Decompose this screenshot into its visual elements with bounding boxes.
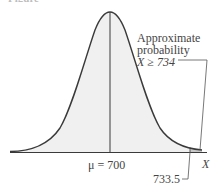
cutoff-label: 733.5 [153, 173, 180, 186]
normal-approximation-figure: Figure Approximate probability X ≥ 734 μ… [0, 0, 221, 191]
cutoff-leader-line [182, 152, 190, 179]
mean-label: μ = 700 [88, 159, 125, 172]
annotation-line-3: X ≥ 734 [137, 56, 175, 69]
annotation-leader-line [178, 60, 207, 150]
x-axis-label: X [202, 158, 209, 171]
